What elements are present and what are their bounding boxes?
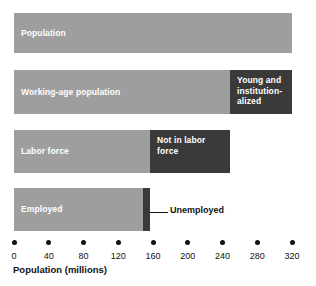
- bar-row-employed: Employed: [0, 188, 316, 231]
- bar-segment-population[interactable]: Population: [14, 13, 292, 53]
- bar-segment-label-not-in-labor-force: Not in labor force: [150, 130, 209, 156]
- bar-segment-labor-force[interactable]: Labor force: [14, 130, 150, 173]
- bar-segment-label-working-age-population: Working-age population: [14, 87, 124, 98]
- unemployed-callout-label: Unemployed: [170, 205, 224, 215]
- axis-tick-dot-200: [185, 240, 190, 245]
- unemployed-leader-line: [150, 212, 168, 213]
- axis-tick-dot-160: [151, 240, 156, 245]
- bar-segment-employed[interactable]: Employed: [14, 188, 143, 231]
- axis-tick-dot-320: [290, 240, 295, 245]
- bar-segment-working-age-population[interactable]: Working-age population: [14, 70, 230, 114]
- axis-tick-dot-0: [12, 240, 17, 245]
- axis-tick-dot-80: [81, 240, 86, 245]
- bar-segment-young-and-institutionalized[interactable]: Young and institution- alized: [230, 70, 292, 114]
- axis-tick-dot-240: [220, 240, 225, 245]
- labor-force-stacked-bar-chart: Population Working-age population Young …: [0, 0, 316, 286]
- bar-segment-label-employed: Employed: [14, 204, 66, 215]
- axis-tick-label-320: 320: [272, 251, 312, 261]
- bar-row-working-age-population: Working-age population Young and institu…: [0, 70, 316, 114]
- bar-segment-label-labor-force: Labor force: [14, 146, 73, 157]
- x-axis-title: Population (millions): [13, 264, 107, 275]
- axis-tick-dot-40: [46, 240, 51, 245]
- axis-tick-dot-280: [255, 240, 260, 245]
- bar-segment-label-young-and-institutionalized: Young and institution- alized: [230, 70, 286, 107]
- bar-segment-unemployed[interactable]: [143, 188, 150, 231]
- axis-tick-dot-120: [116, 240, 121, 245]
- bar-segment-not-in-labor-force[interactable]: Not in labor force: [150, 130, 230, 173]
- bar-row-labor-force: Labor force Not in labor force: [0, 130, 316, 173]
- bar-segment-label-population: Population: [14, 28, 70, 39]
- bar-row-population: Population: [0, 13, 316, 53]
